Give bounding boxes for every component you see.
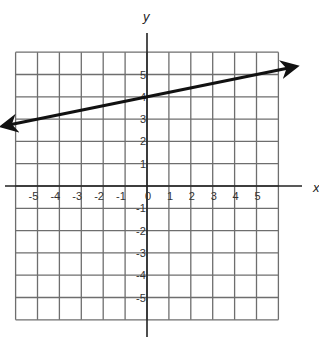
- y-tick-label: -4: [136, 269, 146, 281]
- y-tick-label: -5: [136, 292, 146, 304]
- x-tick-label: 2: [189, 190, 195, 202]
- x-tick-label: -1: [116, 190, 126, 202]
- x-tick-label: 1: [167, 190, 173, 202]
- y-tick-label: -3: [136, 247, 146, 259]
- y-tick-label: 1: [140, 158, 146, 170]
- y-tick-label: 2: [140, 135, 146, 147]
- y-tick-label: 3: [140, 113, 146, 125]
- y-tick-label: -1: [136, 202, 146, 214]
- x-tick-label: 0: [145, 190, 151, 202]
- x-tick-label: 4: [233, 190, 239, 202]
- x-axis-label: x: [312, 180, 319, 195]
- x-tick-label: -5: [29, 190, 39, 202]
- x-tick-label: -4: [50, 190, 60, 202]
- axes: [5, 33, 302, 337]
- coordinate-plane: -5-4-3-2-101234554321-1-2-3-4-5 x y: [0, 0, 319, 337]
- y-axis-label: y: [142, 9, 151, 24]
- x-tick-label: 3: [211, 190, 217, 202]
- y-tick-label: -2: [136, 225, 146, 237]
- x-tick-label: -2: [94, 190, 104, 202]
- x-tick-label: 5: [255, 190, 261, 202]
- y-tick-label: 5: [140, 69, 146, 81]
- x-tick-label: -3: [72, 190, 82, 202]
